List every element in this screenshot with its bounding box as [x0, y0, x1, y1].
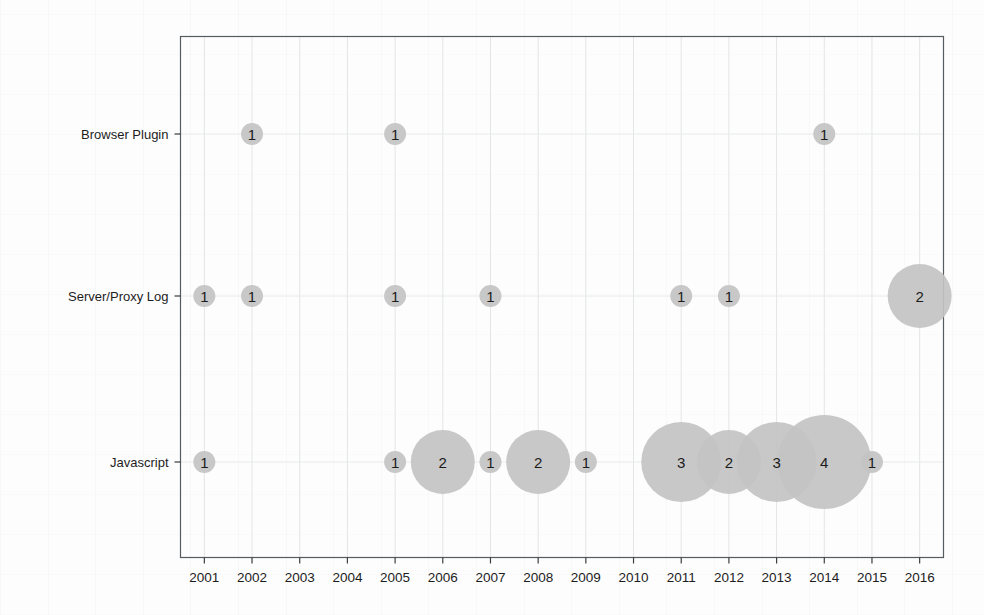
bubble-value-label-browser-plugin-2014: 1 [820, 126, 828, 143]
bubble-chart: 111111111111112222334 200120022003200420… [0, 0, 984, 615]
x-tick-label-2003: 2003 [285, 570, 315, 585]
x-tick-label-2004: 2004 [332, 570, 363, 585]
bubble-value-label-javascript-2008: 2 [534, 454, 542, 471]
bubble-value-label-javascript-2015: 1 [868, 454, 876, 471]
bubble-value-label-server-proxy-log-2002: 1 [248, 288, 256, 305]
x-tick-label-2008: 2008 [523, 570, 553, 585]
bubble-value-label-browser-plugin-2005: 1 [391, 126, 399, 143]
x-tick-label-2016: 2016 [905, 570, 935, 585]
x-tick-label-2012: 2012 [714, 570, 744, 585]
x-tick-label-2005: 2005 [380, 570, 410, 585]
bubble-value-label-javascript-2006: 2 [439, 454, 447, 471]
x-tick-label-2015: 2015 [857, 570, 887, 585]
y-tick-label-javascript: Javascript [110, 455, 169, 470]
bubble-value-label-javascript-2009: 1 [582, 454, 590, 471]
bubble-value-label-server-proxy-log-2007: 1 [486, 288, 494, 305]
x-axis-tick-labels: 2001200220032004200520062007200820092010… [189, 570, 934, 585]
bubble-value-label-server-proxy-log-2016: 2 [915, 288, 923, 305]
x-tick-label-2013: 2013 [762, 570, 792, 585]
bubble-value-label-browser-plugin-2002: 1 [248, 126, 256, 143]
y-axis-tick-labels: JavascriptServer/Proxy LogBrowser Plugin [68, 127, 169, 470]
x-tick-label-2006: 2006 [428, 570, 458, 585]
bubble-value-label-server-proxy-log-2011: 1 [677, 288, 685, 305]
bubble-value-label-javascript-2005: 1 [391, 454, 399, 471]
bubble-value-label-javascript-2013: 3 [772, 454, 780, 471]
x-tick-label-2011: 2011 [667, 570, 696, 585]
bubble-value-label-server-proxy-log-2005: 1 [391, 288, 399, 305]
bubble-value-label-server-proxy-log-2001: 1 [200, 288, 208, 305]
y-tick-label-browser-plugin: Browser Plugin [81, 127, 168, 142]
bubble-value-label-server-proxy-log-2012: 1 [725, 288, 733, 305]
x-tick-label-2014: 2014 [809, 570, 840, 585]
horizontal-gridlines [181, 134, 944, 462]
bubbles-layer: 111111111111112222334 [193, 123, 951, 509]
y-axis-ticks [175, 134, 181, 462]
bubble-value-label-javascript-2001: 1 [200, 454, 208, 471]
x-axis-ticks [204, 558, 919, 564]
bubble-value-label-javascript-2014: 4 [820, 454, 828, 471]
x-tick-label-2001: 2001 [189, 570, 219, 585]
y-tick-label-server-proxy-log: Server/Proxy Log [68, 289, 168, 304]
x-tick-label-2009: 2009 [571, 570, 601, 585]
x-tick-label-2002: 2002 [237, 570, 267, 585]
bubble-chart-svg: 111111111111112222334 200120022003200420… [0, 0, 984, 615]
bubble-value-label-javascript-2007: 1 [486, 454, 494, 471]
x-tick-label-2010: 2010 [619, 570, 649, 585]
bubble-value-label-javascript-2011: 3 [677, 454, 685, 471]
bubble-value-label-javascript-2012: 2 [725, 454, 733, 471]
x-tick-label-2007: 2007 [475, 570, 505, 585]
